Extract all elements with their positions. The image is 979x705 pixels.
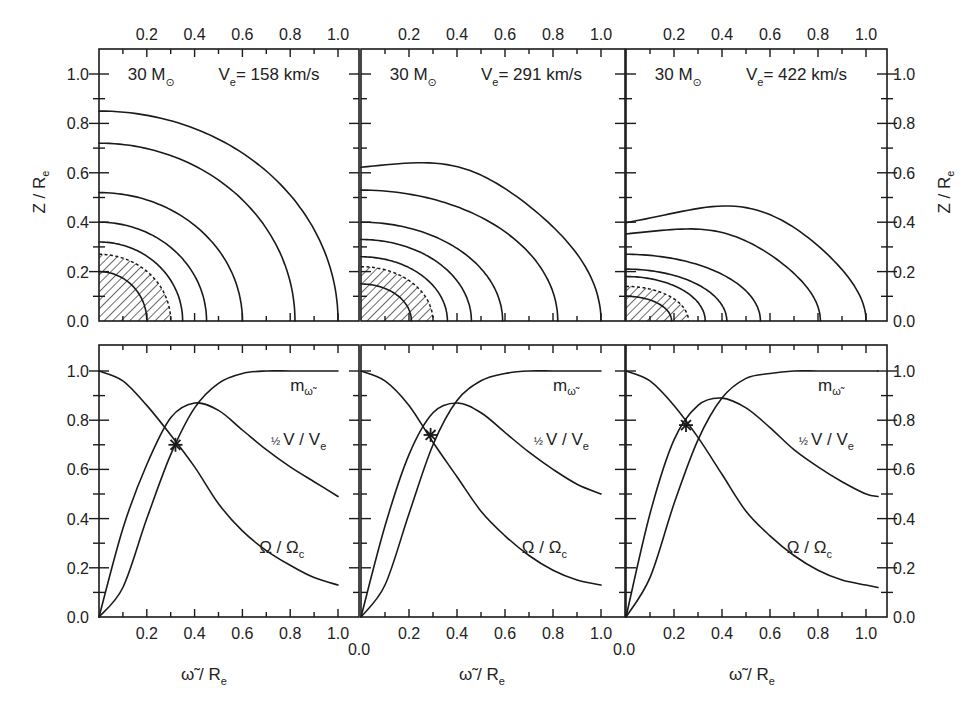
bottom-x-tick-label: 1.0 — [327, 625, 349, 642]
left-y-tick-label: 0.6 — [67, 461, 89, 478]
right-y-tick-label: 1.0 — [893, 66, 915, 83]
bottom-x-tick-label: 1.0 — [855, 625, 877, 642]
top-right-ylabel: Z / Re — [935, 171, 956, 214]
left-y-tick-label: 0.2 — [67, 560, 89, 577]
bottom-x-tick-label: 0.4 — [183, 625, 205, 642]
left-y-tick-label: 1.0 — [67, 66, 89, 83]
left-y-tick-label: 0.8 — [67, 115, 89, 132]
label-m: mω̃ — [818, 376, 845, 397]
panel-mass-label: 30 M⊙ — [128, 65, 175, 88]
panel-mass-label: 30 M⊙ — [655, 65, 702, 88]
profile-panel-1: mω̃½V / VeΩ / Ωc0.20.40.60.81.00.00.20.4… — [67, 345, 359, 642]
contour-panel-1: 30 M⊙Ve= 158 km/s0.20.40.60.81.00.00.20.… — [67, 26, 359, 330]
bottom-x-tick-label: 0.2 — [663, 625, 685, 642]
top-x-tick-label: 0.8 — [807, 26, 829, 43]
bottom-x-tick-label: 0.6 — [494, 625, 516, 642]
contour-panel-3: 30 M⊙Ve= 422 km/s0.20.40.60.81.00.00.20.… — [626, 26, 915, 330]
contour-panel-2: 30 M⊙Ve= 291 km/s0.20.40.60.81.0 — [361, 26, 625, 321]
label-omega: Ω / Ωc — [787, 538, 833, 560]
panel-mass-label: 30 M⊙ — [390, 65, 437, 88]
right-y-tick-label: 0.8 — [893, 412, 915, 429]
panel-velocity-label: Ve= 158 km/s — [219, 65, 320, 88]
right-y-tick-label: 0.0 — [893, 313, 915, 330]
top-left-ylabel: Z / Re — [30, 171, 51, 214]
left-y-tick-label: 0.8 — [67, 412, 89, 429]
origin-label: 0.0 — [613, 641, 635, 658]
left-y-tick-label: 0.4 — [67, 214, 89, 231]
label-omega: Ω / Ωc — [259, 538, 305, 560]
plot-frame — [99, 345, 359, 617]
top-x-tick-label: 0.4 — [446, 26, 468, 43]
top-x-tick-label: 0.4 — [711, 26, 733, 43]
bottom-x-tick-label: 0.6 — [759, 625, 781, 642]
series-line — [626, 371, 878, 588]
right-y-tick-label: 0.0 — [893, 609, 915, 626]
bottom-x-tick-label: 0.8 — [807, 625, 829, 642]
bottom-x-tick-label: 0.8 — [542, 625, 564, 642]
right-y-tick-label: 0.4 — [893, 214, 915, 231]
svg-text:Z / Re: Z / Re — [935, 171, 956, 214]
top-x-tick-label: 0.6 — [231, 26, 253, 43]
left-y-tick-label: 0.6 — [67, 165, 89, 182]
top-x-tick-label: 0.4 — [183, 26, 205, 43]
label-omega: Ω / Ωc — [522, 538, 568, 560]
left-y-tick-label: 0.0 — [67, 609, 89, 626]
label-m: mω̃ — [553, 376, 580, 397]
xlabel-left: ω̃ / Re — [181, 665, 227, 687]
bottom-x-tick-label: 1.0 — [590, 625, 612, 642]
label-m: mω̃ — [290, 376, 317, 397]
series-line — [361, 371, 601, 617]
bottom-x-tick-label: 0.8 — [279, 625, 301, 642]
right-y-tick-label: 0.4 — [893, 511, 915, 528]
svg-text:Z / Re: Z / Re — [30, 171, 51, 214]
top-x-tick-label: 0.2 — [663, 26, 685, 43]
origin-label: 0.0 — [348, 641, 370, 658]
left-y-tick-label: 0.2 — [67, 264, 89, 281]
panel-velocity-label: Ve= 422 km/s — [746, 65, 847, 88]
top-x-tick-label: 0.6 — [494, 26, 516, 43]
label-velocity: ½V / Ve — [799, 430, 854, 452]
label-velocity: ½V / Ve — [271, 430, 326, 452]
right-y-tick-label: 0.6 — [893, 461, 915, 478]
bottom-x-tick-label: 0.4 — [446, 625, 468, 642]
plot-frame — [626, 345, 887, 617]
right-y-tick-label: 1.0 — [893, 363, 915, 380]
panel-velocity-label: Ve= 291 km/s — [481, 65, 582, 88]
left-y-tick-label: 0.4 — [67, 511, 89, 528]
label-velocity: ½V / Ve — [534, 430, 589, 452]
bottom-x-tick-label: 0.6 — [231, 625, 253, 642]
xlabel-middle: ω̃ / Re — [459, 665, 505, 687]
plot-frame — [361, 345, 625, 617]
left-y-tick-label: 0.0 — [67, 313, 89, 330]
top-x-tick-label: 1.0 — [327, 26, 349, 43]
right-y-tick-label: 0.2 — [893, 560, 915, 577]
bottom-x-tick-label: 0.2 — [136, 625, 158, 642]
top-x-tick-label: 0.8 — [279, 26, 301, 43]
top-x-tick-label: 1.0 — [590, 26, 612, 43]
top-x-tick-label: 0.2 — [398, 26, 420, 43]
bottom-x-tick-label: 0.2 — [398, 625, 420, 642]
profile-panel-3: mω̃½V / VeΩ / Ωc0.20.40.60.81.00.00.00.2… — [613, 345, 915, 658]
bottom-x-tick-label: 0.4 — [711, 625, 733, 642]
left-y-tick-label: 1.0 — [67, 363, 89, 380]
plot-frame — [626, 49, 887, 321]
top-x-tick-label: 0.2 — [136, 26, 158, 43]
xlabel-right: ω̃ / Re — [729, 665, 775, 687]
right-y-tick-label: 0.2 — [893, 264, 915, 281]
right-y-tick-label: 0.8 — [893, 115, 915, 132]
profile-panel-2: mω̃½V / VeΩ / Ωc0.20.40.60.81.00.0 — [348, 345, 625, 658]
top-x-tick-label: 0.6 — [759, 26, 781, 43]
top-x-tick-label: 0.8 — [542, 26, 564, 43]
top-x-tick-label: 1.0 — [855, 26, 877, 43]
right-y-tick-label: 0.6 — [893, 165, 915, 182]
figure: Z / Re Z / Re 30 M⊙Ve= 158 km/s0.20.40.6… — [0, 0, 979, 705]
